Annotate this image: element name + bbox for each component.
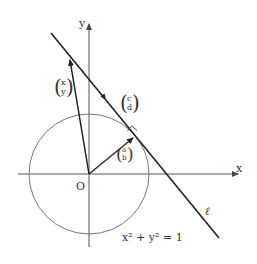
y-axis-label: y bbox=[78, 17, 86, 30]
vector-ab-top: a bbox=[122, 146, 126, 154]
vector-label-xy: ( x y ) bbox=[54, 75, 74, 99]
right-angle-marker bbox=[128, 126, 138, 131]
x-axis-label: x bbox=[236, 162, 243, 175]
circle-equation: x² + y² = 1 bbox=[122, 231, 183, 244]
paren-close: ) bbox=[132, 91, 140, 115]
tangent-line-diagram: y x O ℓ x² + y² = 1 ( x y ) ( c d ) ( a … bbox=[0, 0, 257, 264]
origin-label: O bbox=[76, 180, 85, 193]
paren-close: ) bbox=[66, 75, 74, 99]
tangent-line bbox=[51, 33, 219, 238]
vector-label-ab: ( a b ) bbox=[116, 144, 134, 164]
paren-close: ) bbox=[127, 144, 134, 164]
vector-label-cd: ( c d ) bbox=[120, 91, 140, 115]
line-label: ℓ bbox=[205, 205, 210, 218]
